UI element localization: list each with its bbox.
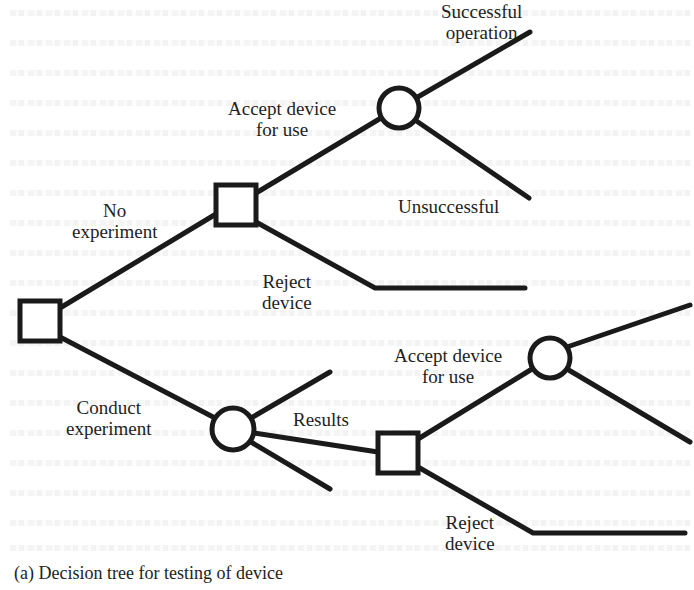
decision-node-square-results-decision: [378, 433, 418, 473]
label-line: device: [445, 533, 495, 554]
label-line: experiment: [66, 418, 151, 439]
label-no-experiment: No experiment: [72, 200, 157, 242]
branch-unsuccessful: [415, 120, 529, 198]
chance-node-circle-exp-accept-chance: [530, 338, 570, 378]
label-line: Accept device: [228, 98, 336, 119]
decision-tree-diagram: [0, 0, 694, 590]
label-accept-device-bottom: Accept device for use: [394, 345, 502, 387]
branch-exp-result-lower: [251, 442, 330, 489]
label-line: Results: [293, 409, 349, 430]
label-line: experiment: [72, 221, 157, 242]
label-line: Reject: [262, 271, 312, 292]
label-line: Accept device: [394, 345, 502, 366]
label-successful-operation: Successful operation: [441, 1, 522, 43]
branch-results: [254, 433, 378, 452]
label-accept-device-top: Accept device for use: [228, 98, 336, 140]
figure-caption: (a) Decision tree for testing of device: [14, 563, 283, 583]
branch-exp-accept-lower: [567, 369, 690, 442]
label-line: No: [72, 200, 157, 221]
chance-node-circle-exp-chance: [212, 408, 254, 450]
label-line: Reject: [445, 512, 495, 533]
label-reject-device-top: Reject device: [262, 271, 312, 313]
label-conduct-experiment: Conduct experiment: [66, 397, 151, 439]
decision-node-square-no-exp-decision: [216, 185, 256, 225]
label-line: for use: [228, 119, 336, 140]
label-line: operation: [441, 22, 522, 43]
chance-node-circle-no-exp-chance: [379, 88, 419, 128]
label-line: Unsuccessful: [398, 196, 499, 217]
label-line: for use: [394, 366, 502, 387]
label-line: Successful: [441, 1, 522, 22]
label-line: Conduct: [66, 397, 151, 418]
label-line: device: [262, 292, 312, 313]
label-unsuccessful: Unsuccessful: [398, 196, 499, 217]
decision-node-square-root: [20, 301, 60, 341]
label-results: Results: [293, 409, 349, 430]
branch-exp-accept-upper: [567, 305, 690, 347]
label-reject-device-bottom: Reject device: [445, 512, 495, 554]
